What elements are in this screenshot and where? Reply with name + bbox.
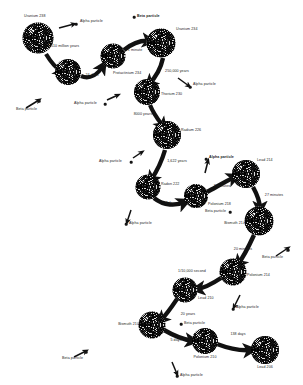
nuclide-label-th230: Thorium 230 bbox=[161, 93, 182, 97]
nuclide-label-u238: Uranium 238 bbox=[24, 15, 45, 19]
half-life-label-po218-to-pb214: 3 minutes bbox=[214, 185, 230, 189]
particle-dot-alpha bbox=[189, 86, 192, 89]
nuclide-node-pb210 bbox=[173, 278, 198, 303]
nuclide-label-po218: Polonium 218 bbox=[208, 203, 231, 207]
particle-dot-alpha bbox=[130, 161, 133, 164]
nuclide-node-po214 bbox=[220, 259, 247, 286]
half-life-label-pb210-to-bi210: 20 years bbox=[181, 313, 195, 317]
half-life-label-u234-to-th230: 250,000 years bbox=[165, 70, 189, 74]
nuclide-node-th230 bbox=[134, 79, 160, 105]
emission-label-alpha: Alpha particle bbox=[180, 374, 203, 378]
emission-arrow bbox=[205, 161, 208, 173]
particle-dot-beta bbox=[287, 249, 290, 252]
emission-arrow bbox=[178, 78, 189, 86]
half-life-label-po214-to-pb210: 1/10,000 second bbox=[178, 270, 206, 274]
nuclide-node-rn222 bbox=[136, 175, 161, 200]
half-life-label-u238-to-th234: 4510 million years bbox=[49, 45, 79, 49]
emission-arrow bbox=[172, 362, 177, 374]
decay-arrow bbox=[217, 344, 251, 350]
emission-label-beta: Beta particle bbox=[137, 15, 160, 19]
nuclide-label-po214: Polonium 214 bbox=[247, 274, 270, 278]
particle-dot-alpha bbox=[125, 223, 128, 226]
nuclide-node-th234 bbox=[55, 59, 81, 85]
nuclide-node-po218 bbox=[184, 184, 208, 208]
nuclide-node-pb214 bbox=[232, 160, 260, 188]
emission-label-beta: Beta particle bbox=[205, 210, 226, 214]
nuclide-node-bi214 bbox=[245, 207, 274, 236]
half-life-label-bi210-to-po210: 5 days bbox=[170, 339, 181, 343]
nuclide-label-ra226: Radium 226 bbox=[181, 129, 201, 133]
emission-arrow bbox=[107, 95, 118, 100]
emission-arrow bbox=[59, 24, 74, 28]
half-life-label-po210-to-pb206: 138 days bbox=[230, 333, 245, 337]
nuclide-label-po210: Polonium 210 bbox=[194, 356, 217, 360]
half-life-label-th230-to-ra226: 8000 years bbox=[134, 113, 153, 117]
particle-dot-beta bbox=[180, 323, 183, 326]
nuclide-node-bi210 bbox=[139, 312, 166, 339]
emission-label-alpha: Alpha particle bbox=[99, 160, 122, 164]
emission-label-beta: Beta particle bbox=[62, 357, 83, 361]
particle-dot-beta bbox=[38, 100, 41, 103]
emission-label-alpha: Alpha particle bbox=[209, 156, 234, 160]
emission-label-alpha: Alpha particle bbox=[193, 83, 216, 87]
particle-dot-alpha bbox=[104, 103, 107, 106]
half-life-label-pa234-to-u234: 1 minute bbox=[128, 49, 142, 53]
nuclide-label-pb214: Lead 214 bbox=[257, 159, 273, 163]
emission-label-alpha: Alpha particle bbox=[80, 20, 103, 24]
emission-label-alpha: Alpha particle bbox=[129, 222, 152, 226]
half-life-label-ra226-to-rn222: 1,622 years bbox=[167, 160, 187, 164]
decay-arrow bbox=[197, 278, 221, 289]
decay-chain-diagram: Uranium 238Protactinium 234Uranium 234Th… bbox=[0, 0, 303, 385]
nuclide-label-u234: Uranium 234 bbox=[176, 28, 197, 32]
particle-dot-beta bbox=[85, 351, 88, 354]
emission-arrow bbox=[133, 152, 142, 158]
half-life-label-rn222-to-po218: 4 days bbox=[165, 202, 176, 206]
nuclide-node-u234 bbox=[147, 29, 176, 58]
nuclide-node-po210 bbox=[192, 328, 218, 354]
half-life-label-pb214-to-bi214: 27 minutes bbox=[265, 194, 283, 198]
particle-dot-beta bbox=[133, 16, 136, 19]
particle-dot-alpha bbox=[176, 375, 179, 378]
particle-dot-beta bbox=[229, 211, 232, 214]
nuclide-label-pb210: Lead 210 bbox=[198, 297, 214, 301]
emission-label-beta: Beta particle bbox=[262, 256, 283, 260]
nuclide-node-ra226 bbox=[153, 121, 181, 149]
particle-dot-alpha bbox=[205, 158, 208, 161]
nuclide-node-pa234 bbox=[101, 44, 126, 69]
nuclide-label-bi214: Bismuth 214 bbox=[224, 222, 245, 226]
particle-dot-alpha bbox=[75, 23, 78, 26]
nuclide-label-rn222: Radon 222 bbox=[161, 183, 179, 187]
particle-dot-alpha bbox=[232, 308, 235, 311]
emission-label-beta: Beta particle bbox=[16, 108, 37, 112]
nuclide-label-pa234: Protactinium 234 bbox=[113, 72, 141, 76]
nuclide-label-bi210: Bismuth 210 bbox=[118, 323, 139, 327]
half-life-label-th234-to-pa234: 24 days bbox=[85, 74, 98, 78]
nuclide-label-pb206: Lead 206 bbox=[257, 366, 273, 370]
nuclide-node-pb206 bbox=[251, 336, 279, 364]
half-life-label-bi214-to-po214: 20 minutes bbox=[234, 248, 252, 252]
emission-label-alpha: Alpha particle bbox=[74, 102, 97, 106]
emission-label-beta: Beta particle bbox=[184, 322, 205, 326]
emission-label-alpha: Alpha particle bbox=[236, 306, 259, 310]
